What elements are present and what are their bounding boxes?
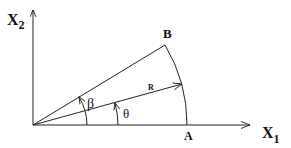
theta-angle-arc <box>115 103 118 125</box>
theta-label: θ <box>123 106 129 121</box>
beta-label: β <box>87 96 94 111</box>
radius-label: R <box>148 83 154 92</box>
polar-sector-diagram: X2 X1 B A R β θ <box>0 0 291 148</box>
point-a-label: A <box>184 129 193 143</box>
radius-arrow <box>33 84 182 125</box>
point-b-label: B <box>163 26 172 41</box>
ray-ob <box>33 45 165 125</box>
x2-axis-label: X2 <box>7 11 25 32</box>
arc-ab <box>165 45 187 125</box>
x1-axis-label: X1 <box>262 124 280 146</box>
